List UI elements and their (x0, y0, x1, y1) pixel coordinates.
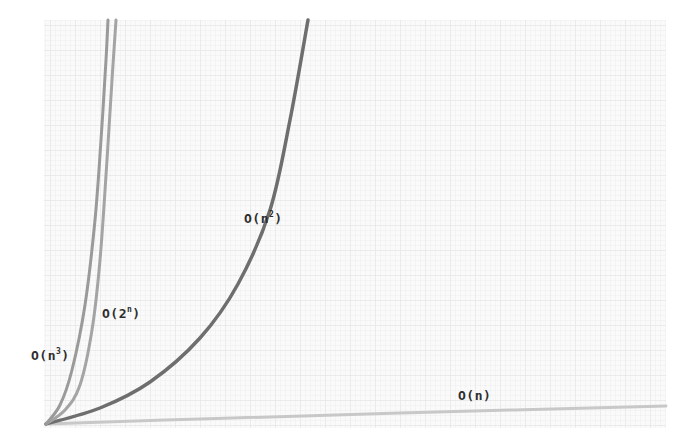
complexity-chart (0, 0, 689, 446)
label-linear: O(n) (458, 388, 491, 403)
grid-lines (44, 20, 666, 428)
label-exponential: O(2n) (102, 305, 141, 321)
label-cubic: O(n3) (31, 347, 70, 363)
label-quadratic: O(n2) (244, 210, 283, 226)
